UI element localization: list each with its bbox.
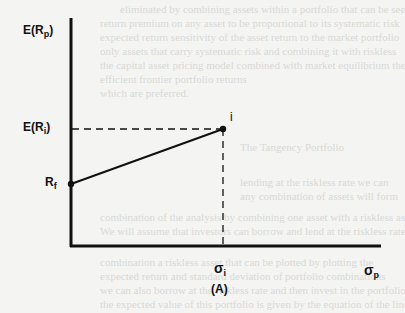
sigma-i-label: σi: [214, 260, 226, 278]
point-i: [220, 126, 226, 132]
y-axis-label: E(Rp): [23, 23, 53, 39]
figure-caption: (A): [211, 282, 228, 296]
e-ri-label: E(Ri): [23, 120, 50, 136]
point-rf: [68, 181, 74, 187]
rf-to-i-line: [71, 129, 223, 184]
diagram-canvas: [0, 0, 405, 313]
rf-label: Rf: [45, 175, 57, 191]
point-i-label: i: [230, 110, 233, 124]
x-axis-label: σp: [364, 262, 379, 280]
